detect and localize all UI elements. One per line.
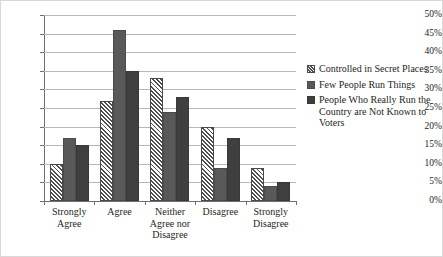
bar-group [195, 15, 245, 201]
legend-item[interactable]: Few People Run Things [307, 79, 439, 91]
category-label-line: Strongly [246, 206, 296, 218]
x-axis-tick-mark [94, 201, 95, 205]
bar [176, 97, 189, 201]
category-label-line: Agree nor [145, 218, 195, 230]
bar [150, 78, 163, 201]
legend-swatch-icon [307, 96, 315, 104]
y-axis-tick-label: 45% [406, 29, 442, 39]
bar [76, 145, 89, 201]
x-axis-category-label: NeitherAgree norDisagree [145, 206, 195, 241]
category-label-line: Disagree [195, 206, 245, 218]
y-axis-tick-label: 40% [406, 47, 442, 57]
x-axis-category-label: Agree [94, 206, 144, 218]
legend-item-label: Controlled in Secret Places [319, 63, 428, 75]
bar [201, 127, 214, 201]
y-axis-tick-label: 0% [406, 196, 442, 206]
bar-group [145, 15, 195, 201]
plot-area [44, 15, 296, 201]
legend-swatch-icon [307, 65, 315, 73]
chart-legend: Controlled in Secret PlacesFew People Ru… [307, 63, 439, 133]
legend-swatch-icon [307, 81, 315, 89]
bar [163, 112, 176, 201]
chart-figure: 0%5%10%15%20%25%30%35%40%45%50% Strongly… [0, 0, 443, 257]
bar [227, 138, 240, 201]
bar [100, 101, 113, 201]
x-axis-tick-mark [44, 201, 45, 205]
category-label-line: Agree [44, 218, 94, 230]
category-label-line: Neither [145, 206, 195, 218]
bar [113, 30, 126, 201]
legend-item-label: Few People Run Things [319, 79, 415, 91]
x-axis-tick-mark [195, 201, 196, 205]
bar [50, 164, 63, 201]
category-label-line: Agree [94, 206, 144, 218]
y-axis-tick-label: 50% [406, 10, 442, 20]
y-axis-tick-label: 5% [406, 177, 442, 187]
category-label-line: Disagree [246, 218, 296, 230]
category-label-line: Strongly [44, 206, 94, 218]
bar-group [44, 15, 94, 201]
bar [251, 168, 264, 201]
legend-item[interactable]: Controlled in Secret Places [307, 63, 439, 75]
legend-item-label: People Who Really Run the Country are No… [319, 94, 439, 129]
x-axis-tick-mark [246, 201, 247, 205]
bar [63, 138, 76, 201]
bar [126, 71, 139, 201]
legend-item[interactable]: People Who Really Run the Country are No… [307, 94, 439, 129]
category-label-line: Disagree [145, 229, 195, 241]
x-axis-category-label: Disagree [195, 206, 245, 218]
bar-group [246, 15, 296, 201]
bar [214, 168, 227, 201]
gridline [44, 201, 296, 202]
x-axis-category-label: StronglyAgree [44, 206, 94, 229]
y-axis-tick-label: 15% [406, 140, 442, 150]
bar-group [94, 15, 144, 201]
x-axis-category-label: StronglyDisagree [246, 206, 296, 229]
bar [264, 186, 277, 201]
x-axis-tick-mark [145, 201, 146, 205]
x-axis-tick-mark [296, 201, 297, 205]
bar [277, 182, 290, 201]
y-axis-tick-label: 10% [406, 159, 442, 169]
